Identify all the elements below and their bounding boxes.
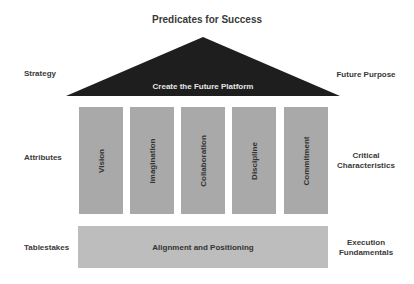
label-line: Fundamentals <box>326 248 406 258</box>
roof-label: Create the Future Platform <box>66 82 340 91</box>
pillar-label: Collaboration <box>199 135 208 187</box>
pillar-collaboration: Collaboration <box>181 107 225 214</box>
pillar-label: Commitment <box>302 136 311 185</box>
base-label: Alignment and Positioning <box>152 243 253 252</box>
label-line: Critical <box>326 151 406 161</box>
pillar-label: Imagination <box>148 138 157 183</box>
pillar-label: Vision <box>97 149 106 173</box>
label-tablestakes: Tablestakes <box>24 243 69 252</box>
label-line: Execution <box>326 238 406 248</box>
label-attributes: Attributes <box>24 153 62 162</box>
pillar-label: Discipline <box>250 142 259 180</box>
pillar-commitment: Commitment <box>284 107 328 214</box>
pillar-imagination: Imagination <box>130 107 174 214</box>
label-critical-characteristics: Critical Characteristics <box>326 151 406 171</box>
pillar-discipline: Discipline <box>232 107 276 214</box>
base-foundation: Alignment and Positioning <box>78 226 328 268</box>
label-future-purpose: Future Purpose <box>326 70 406 80</box>
label-line: Characteristics <box>326 161 406 171</box>
label-execution-fundamentals: Execution Fundamentals <box>326 238 406 258</box>
diagram-title: Predicates for Success <box>0 14 414 25</box>
pillar-vision: Vision <box>79 107 123 214</box>
label-strategy: Strategy <box>24 69 56 78</box>
